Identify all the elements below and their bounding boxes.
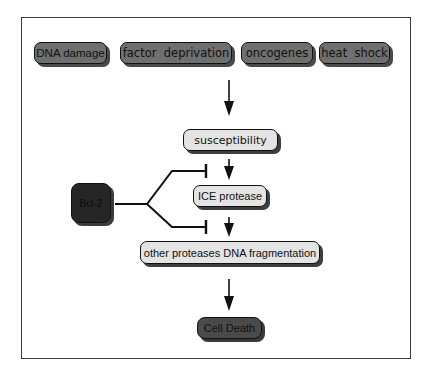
arrow-to-cell-death [224, 279, 234, 311]
node-label: Bcl-2 [80, 198, 103, 209]
node-bcl-2: Bcl-2 [71, 183, 111, 223]
node-oncogenes: oncogenes [241, 42, 313, 64]
node-dna-damage: DNA damage [34, 42, 107, 64]
node-label: other proteases DNA fragmentation [144, 247, 316, 259]
node-label: ICE protease [198, 190, 262, 202]
arrow-ice-to-other-proteases [224, 217, 234, 237]
node-label: heat shock [321, 46, 388, 60]
node-label: DNA damage [36, 47, 104, 59]
arrow-susceptibility-to-ice [224, 159, 234, 180]
node-label: factor deprivation [123, 46, 229, 60]
node-other-proteases: other proteases DNA fragmentation [140, 241, 320, 264]
node-label: susceptibility [194, 134, 267, 147]
node-label: Cell Death [204, 322, 255, 334]
node-label: oncogenes [246, 46, 308, 60]
node-ice-protease: ICE protease [193, 185, 267, 207]
node-factor-deprivation: factor deprivation [120, 42, 232, 64]
node-cell-death: Cell Death [197, 317, 262, 339]
arrow-inputs-to-susceptibility [224, 80, 234, 116]
node-heat-shock: heat shock [319, 42, 390, 64]
node-susceptibility: susceptibility [183, 129, 278, 151]
